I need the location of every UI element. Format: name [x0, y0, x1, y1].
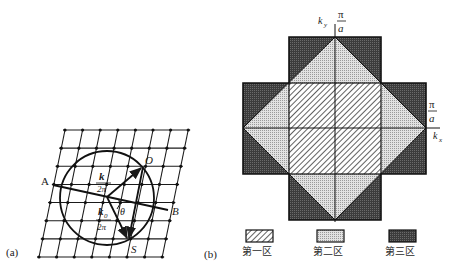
angle-theta-label: θ — [120, 206, 125, 217]
legend-item-zone1: 第一区 — [242, 230, 273, 257]
legend-swatch-dark — [389, 230, 416, 242]
legend-label-zone1: 第一区 — [242, 245, 272, 257]
ky-axis-subscript: y — [323, 21, 328, 29]
panel-a-ewald-construction: A B O S θ k 2π k 0 2π (a) — [6, 128, 190, 259]
panel-b-brillouin-zones: k y π a π a k x 第一区 第二区 第三区 — [204, 8, 443, 261]
kx-tick-pi-over-a: π a — [428, 98, 437, 124]
point-s-label: S — [131, 243, 137, 255]
crystal-plane-line-ab — [53, 185, 168, 210]
svg-text:a: a — [338, 22, 344, 34]
svg-text:k: k — [99, 170, 105, 182]
legend-swatch-dots — [317, 230, 344, 242]
legend-label-zone2: 第二区 — [313, 245, 343, 257]
figure-canvas: A B O S θ k 2π k 0 2π (a) k — [0, 0, 455, 276]
panel-b-label: (b) — [204, 248, 217, 261]
legend-item-zone2: 第二区 — [313, 230, 344, 257]
point-b-label: B — [172, 205, 179, 217]
svg-text:π: π — [429, 98, 435, 110]
svg-text:0: 0 — [104, 212, 108, 220]
legend-item-zone3: 第三区 — [385, 230, 416, 257]
svg-text:π: π — [338, 8, 344, 20]
point-a-label: A — [41, 175, 49, 187]
ky-tick-pi-over-a: π a — [337, 8, 346, 34]
svg-text:a: a — [429, 112, 435, 124]
legend-swatch-hatch — [246, 230, 273, 242]
vector-k0-over-2pi-label: k 0 2π — [96, 205, 111, 232]
svg-text:2π: 2π — [97, 184, 107, 194]
svg-text:2π: 2π — [97, 222, 107, 232]
point-o-label: O — [145, 154, 153, 166]
kx-axis-label: k — [433, 130, 438, 141]
ky-axis-label: k — [318, 15, 323, 26]
panel-a-label: (a) — [6, 246, 19, 259]
legend-label-zone3: 第三区 — [385, 245, 415, 257]
vector-k-arrow — [107, 168, 141, 197]
legend: 第一区 第二区 第三区 — [242, 230, 416, 257]
kx-axis-subscript: x — [438, 136, 443, 144]
vector-k0-arrow — [107, 197, 127, 238]
